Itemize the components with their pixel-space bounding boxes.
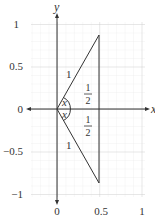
lower-half-numerator: 1 bbox=[86, 114, 91, 125]
y-tick-neg0.5: −0.5 bbox=[3, 145, 23, 157]
upper-half-numerator: 1 bbox=[86, 82, 91, 93]
upper-angle-label: x bbox=[61, 96, 67, 108]
x-axis-label: x bbox=[150, 102, 155, 116]
x-axis-arrow-right-icon bbox=[145, 107, 150, 111]
x-tick-0.5: 0.5 bbox=[94, 205, 108, 217]
lower-angle-label: x bbox=[61, 108, 67, 120]
lower-hypotenuse-label: 1 bbox=[66, 139, 72, 151]
diagram-canvas: y x 1 0.5 0 −0.5 −1 0 0.5 1 x x 1 1 1 2 … bbox=[0, 0, 155, 218]
x-tick-0: 0 bbox=[54, 205, 60, 217]
upper-half-denominator: 2 bbox=[86, 95, 91, 106]
y-tick-0.5: 0.5 bbox=[9, 60, 23, 72]
y-tick-neg1: −1 bbox=[11, 188, 23, 200]
y-tick-1: 1 bbox=[14, 18, 20, 30]
x-axis-arrow-left-icon bbox=[26, 107, 31, 111]
x-tick-1: 1 bbox=[139, 205, 145, 217]
y-axis-label: y bbox=[53, 0, 60, 14]
upper-hypotenuse-label: 1 bbox=[66, 68, 72, 80]
y-tick-0: 0 bbox=[18, 103, 24, 115]
lower-half-denominator: 2 bbox=[86, 127, 91, 138]
